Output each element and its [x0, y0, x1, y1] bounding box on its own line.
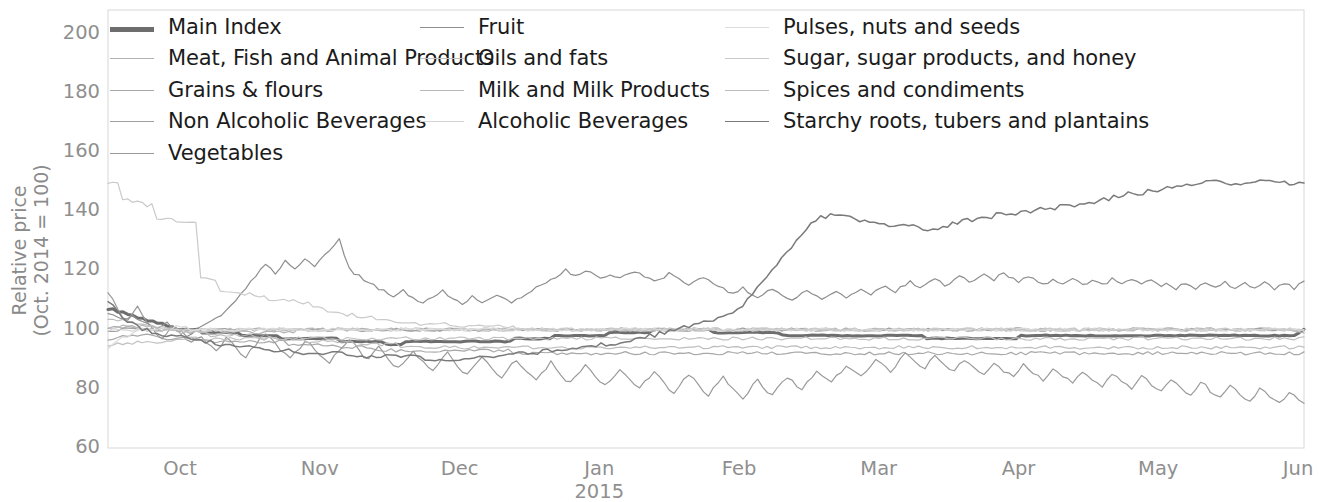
x-tick-label: Nov: [260, 458, 380, 481]
legend-item[interactable]: Non Alcoholic Beverages: [110, 106, 420, 138]
legend-item[interactable]: Pulses, nuts and seeds: [725, 11, 1145, 43]
legend-item[interactable]: Vegetables: [110, 137, 420, 169]
legend-label: Fruit: [478, 15, 524, 39]
legend-line-swatch-icon: [110, 114, 154, 128]
legend-line-swatch-icon: [110, 146, 154, 160]
legend-line-swatch-icon: [420, 51, 464, 65]
x-tick-month: May: [1138, 457, 1178, 480]
legend-label: Milk and Milk Products: [478, 78, 710, 102]
legend-line-swatch-icon: [725, 51, 769, 65]
x-tick-label: Feb: [679, 458, 799, 481]
x-tick-month: Mar: [860, 457, 897, 480]
legend-column: FruitOils and fatsMilk and Milk Products…: [420, 11, 725, 169]
legend-label: Alcoholic Beverages: [478, 109, 688, 133]
legend-line-swatch-icon: [110, 83, 154, 97]
x-tick-label: Jan2015: [539, 458, 659, 502]
legend-label: Spices and condiments: [783, 78, 1024, 102]
x-tick-label: Apr: [959, 458, 1079, 481]
legend-label: Grains & flours: [168, 78, 323, 102]
x-tick-month: Feb: [722, 457, 757, 480]
chart-legend[interactable]: Main IndexMeat, Fish and Animal Products…: [110, 11, 1304, 169]
legend-line-swatch-icon: [420, 20, 464, 34]
legend-item[interactable]: Meat, Fish and Animal Products: [110, 43, 420, 75]
x-tick-label: Mar: [819, 458, 939, 481]
x-tick-month: Nov: [301, 457, 339, 480]
legend-line-swatch-icon: [110, 20, 154, 34]
legend-label: Starchy roots, tubers and plantains: [783, 109, 1149, 133]
x-tick-label: May: [1098, 458, 1218, 481]
legend-label: Sugar, sugar products, and honey: [783, 46, 1136, 70]
legend-column: Main IndexMeat, Fish and Animal Products…: [110, 11, 420, 169]
legend-line-swatch-icon: [725, 83, 769, 97]
legend-item[interactable]: Milk and Milk Products: [420, 74, 725, 106]
x-tick-month: Jan: [584, 457, 614, 480]
x-tick-label: Dec: [400, 458, 520, 481]
legend-item[interactable]: Alcoholic Beverages: [420, 106, 725, 138]
x-tick-label: Oct: [120, 458, 240, 481]
legend-label: Oils and fats: [478, 46, 608, 70]
x-tick-month: Jun: [1283, 457, 1313, 480]
legend-item[interactable]: Main Index: [110, 11, 420, 43]
legend-item[interactable]: Grains & flours: [110, 74, 420, 106]
legend-line-swatch-icon: [110, 51, 154, 65]
x-tick-year: 2015: [539, 481, 659, 502]
x-tick-month: Dec: [441, 457, 479, 480]
legend-item[interactable]: Fruit: [420, 11, 725, 43]
legend-item[interactable]: Spices and condiments: [725, 74, 1145, 106]
legend-item[interactable]: Starchy roots, tubers and plantains: [725, 106, 1145, 138]
x-tick-label: Jun: [1238, 458, 1319, 481]
legend-label: Pulses, nuts and seeds: [783, 15, 1020, 39]
legend-column: Pulses, nuts and seedsSugar, sugar produ…: [725, 11, 1145, 169]
legend-label: Non Alcoholic Beverages: [168, 109, 426, 133]
legend-item[interactable]: Oils and fats: [420, 43, 725, 75]
legend-line-swatch-icon: [420, 114, 464, 128]
legend-line-swatch-icon: [725, 114, 769, 128]
legend-line-swatch-icon: [420, 83, 464, 97]
legend-label: Main Index: [168, 15, 282, 39]
legend-line-swatch-icon: [725, 20, 769, 34]
x-tick-month: Oct: [163, 457, 197, 480]
x-tick-month: Apr: [1002, 457, 1036, 480]
legend-item[interactable]: Sugar, sugar products, and honey: [725, 43, 1145, 75]
legend-label: Vegetables: [168, 141, 283, 165]
